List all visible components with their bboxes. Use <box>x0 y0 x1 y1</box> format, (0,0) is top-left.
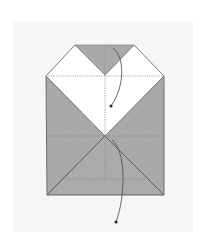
arrow-head-dot-icon <box>114 220 117 223</box>
origami-diagram <box>0 0 200 246</box>
arrow-head-dot-icon <box>109 104 112 107</box>
